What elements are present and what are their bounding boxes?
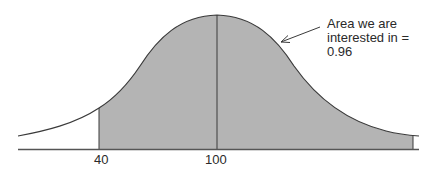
arrow-icon — [281, 27, 320, 43]
x-label-100: 100 — [205, 153, 227, 167]
annotation-line-1: Area we are — [327, 17, 434, 31]
annotation-line-2: interested in = 0.96 — [327, 31, 434, 59]
annotation-text: Area we are interested in = 0.96 — [327, 17, 434, 59]
x-label-40: 40 — [94, 153, 108, 167]
